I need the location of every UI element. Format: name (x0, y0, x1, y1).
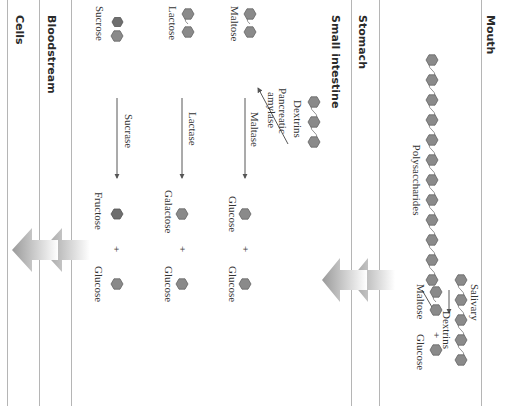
maltase-label: Maltase (249, 112, 260, 147)
polysaccharides-label: Polysaccharides (411, 120, 422, 240)
dextrins-chain-icon-intestine (308, 97, 320, 147)
glucose-label-sucrase: Glucose (93, 266, 104, 302)
glucose-icon-lactase (176, 279, 188, 289)
glucose-icon-maltase-a (239, 209, 251, 219)
dextrins-chain-icon-mouth (455, 275, 467, 365)
glucose-icon-sucrase (111, 279, 123, 289)
maltose-label-mouth: Maltose (415, 284, 426, 319)
plus-sign-mouth: + (431, 332, 443, 338)
glucose-icon-maltase-b (239, 279, 251, 289)
flow-arrow-bloodstream-to-cells-icon (12, 228, 58, 272)
pancreatic-amylase-label-line2: amylase (266, 92, 277, 128)
salivary-amylase-label-line1: Salivary (469, 284, 480, 321)
dextrins-label-intestine: Dextrins (292, 100, 303, 138)
glucose-label-maltase-a: Glucose (227, 196, 238, 232)
maltose-icon (244, 9, 256, 37)
diagram-canvas: Mouth Stomach Small intestine Bloodstrea… (0, 0, 510, 406)
plus-sign-sucrase: + (111, 246, 123, 252)
molecule-shapes-layer (0, 0, 510, 406)
carbohydrate-digestion-diagram: Mouth Stomach Small intestine Bloodstrea… (0, 0, 510, 406)
sucrase-label: Sucrase (123, 114, 134, 148)
polysaccharide-chain-icon (426, 55, 438, 285)
glucose-label-mouth: Glucose (415, 334, 426, 370)
flow-arrow-stomach-to-intestine-icon (322, 258, 367, 302)
sucrose-icon (111, 18, 123, 42)
galactose-icon (176, 209, 188, 219)
glucose-label-maltase-b: Glucose (227, 266, 238, 302)
sucrose-label: Sucrose (94, 6, 105, 41)
fructose-label: Fructose (93, 192, 104, 230)
galactose-label: Galactose (163, 190, 174, 233)
glucose-label-lactase: Glucose (163, 266, 174, 302)
plus-sign-lactase: + (177, 246, 189, 252)
lactose-icon (182, 9, 194, 37)
plus-sign-maltase: + (240, 246, 252, 252)
lactose-label: Lactose (167, 6, 178, 40)
lactase-label: Lactase (187, 112, 198, 146)
maltose-label: Maltose (229, 6, 240, 41)
fructose-icon (111, 209, 123, 219)
pancreatic-amylase-label-line1: Pancreatic (277, 88, 288, 134)
dextrins-label-mouth: Dextrins (441, 300, 452, 360)
